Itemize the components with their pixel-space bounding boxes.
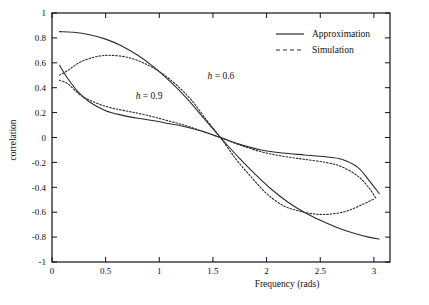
legend-label: Approximation [312, 29, 370, 39]
y-tick-label: -1 [39, 257, 47, 267]
curve-annotation: h = 0.6 [208, 71, 235, 81]
chart-figure: 00.511.522.53 10.80.60.40.20-0.2-0.4-0.6… [0, 0, 429, 305]
y-tick-label: -0.2 [32, 158, 46, 168]
y-tick-label: 0 [42, 133, 47, 143]
y-tick-label: 0.8 [35, 33, 47, 43]
x-tick-label: 3 [372, 266, 377, 276]
y-tick-label: 0.2 [35, 108, 46, 118]
annotation-value: = 0.9 [140, 91, 162, 101]
y-tick-label: 0.4 [35, 83, 47, 93]
y-tick-label: 0.6 [35, 58, 47, 68]
x-tick-label: 0.5 [100, 266, 112, 276]
y-tick-label: -0.4 [32, 183, 47, 193]
legend-label: Simulation [312, 45, 354, 55]
curve-annotation: h = 0.9 [136, 91, 163, 101]
y-tick-label: 1 [42, 8, 47, 18]
correlation-vs-frequency-chart: 00.511.522.53 10.80.60.40.20-0.2-0.4-0.6… [0, 0, 429, 305]
x-tick-label: 0 [50, 266, 55, 276]
y-tick-label: -0.8 [32, 232, 47, 242]
y-axis-title: correlation [8, 119, 18, 160]
x-tick-label: 2.5 [315, 266, 327, 276]
x-tick-label: 1 [157, 266, 162, 276]
chart-background [0, 0, 429, 305]
x-tick-label: 1.5 [207, 266, 219, 276]
x-tick-label: 2 [264, 266, 269, 276]
x-axis-title: Frequency (rads) [255, 279, 320, 290]
annotation-value: = 0.6 [212, 71, 234, 81]
y-tick-label: -0.6 [32, 207, 47, 217]
